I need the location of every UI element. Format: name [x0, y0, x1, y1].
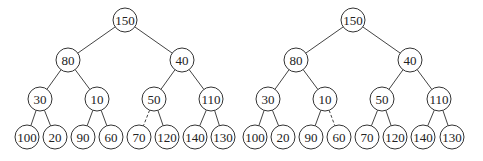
tree-edge: [306, 27, 343, 53]
tree-edge: [161, 70, 175, 90]
tree-edge: [389, 70, 403, 90]
tree-node: 60: [327, 125, 351, 149]
left-tree: 150804030105011010020906070120140130: [15, 8, 235, 149]
node-label: 110: [201, 92, 220, 107]
tree-node: 20: [43, 125, 67, 149]
tree-edge: [31, 110, 36, 125]
tree-node: 120: [383, 125, 407, 149]
tree-node: 60: [99, 125, 123, 149]
tree-edge: [272, 110, 278, 126]
node-label: 120: [157, 130, 177, 145]
tree-node: 50: [370, 87, 394, 111]
tree-node: 40: [170, 48, 194, 72]
tree-edge: [47, 70, 61, 90]
tree-edge: [417, 70, 432, 90]
node-label: 110: [429, 92, 448, 107]
node-label: 130: [442, 130, 462, 145]
tree-node: 40: [398, 48, 422, 72]
node-label: 80: [62, 53, 75, 68]
heap-diagram: 150804030105011010020906070120140130 150…: [0, 0, 483, 161]
tree-node: 10: [85, 87, 109, 111]
tree-node: 50: [142, 87, 166, 111]
edges: [259, 27, 448, 126]
tree-edge: [363, 27, 400, 53]
tree-edge: [443, 110, 448, 125]
tree-node: 140: [411, 125, 435, 149]
tree-node: 30: [28, 87, 52, 111]
tree-edge: [101, 110, 107, 125]
dashed-edge: [143, 110, 149, 126]
tree-edge: [44, 110, 50, 126]
node-label: 120: [385, 130, 405, 145]
node-label: 100: [245, 130, 265, 145]
tree-node: 100: [243, 125, 267, 149]
tree-node: 150: [341, 8, 365, 32]
node-label: 70: [133, 130, 146, 145]
tree-node: 20: [271, 125, 295, 149]
tree-edge: [215, 110, 220, 125]
node-label: 70: [361, 130, 374, 145]
tree-edge: [315, 110, 321, 125]
node-label: 150: [115, 13, 135, 28]
tree-node: 70: [355, 125, 379, 149]
tree-edge: [158, 110, 163, 125]
tree-edge: [135, 27, 172, 53]
node-label: 60: [333, 130, 346, 145]
tree-edge: [75, 70, 90, 90]
tree-node: 90: [71, 125, 95, 149]
tree-edge: [371, 110, 377, 126]
tree-node: 100: [15, 125, 39, 149]
tree-edge: [78, 27, 115, 53]
tree-node: 110: [199, 87, 223, 111]
node-label: 40: [404, 53, 417, 68]
tree-edge: [275, 70, 289, 90]
tree-node: 90: [299, 125, 323, 149]
tree-edge: [259, 110, 264, 125]
node-label: 10: [319, 92, 332, 107]
tree-node: 140: [183, 125, 207, 149]
tree-diagram-canvas: 150804030105011010020906070120140130 150…: [0, 0, 483, 161]
node-label: 30: [262, 92, 275, 107]
tree-node: 70: [127, 125, 151, 149]
node-label: 40: [176, 53, 189, 68]
tree-edge: [189, 70, 204, 90]
tree-node: 120: [155, 125, 179, 149]
tree-node: 80: [56, 48, 80, 72]
node-label: 50: [376, 92, 389, 107]
node-label: 140: [413, 130, 433, 145]
node-label: 80: [290, 53, 303, 68]
node-label: 90: [77, 130, 90, 145]
node-label: 60: [105, 130, 118, 145]
tree-node: 10: [313, 87, 337, 111]
node-label: 130: [213, 130, 233, 145]
node-label: 20: [277, 130, 290, 145]
tree-edge: [428, 110, 435, 126]
tree-edge: [303, 70, 318, 90]
tree-node: 130: [211, 125, 235, 149]
tree-edge: [386, 110, 391, 125]
tree-node: 30: [256, 87, 280, 111]
node-label: 140: [185, 130, 205, 145]
node-label: 90: [305, 130, 318, 145]
node-label: 50: [148, 92, 161, 107]
tree-edge: [200, 110, 207, 126]
tree-node: 150: [113, 8, 137, 32]
tree-edge: [87, 110, 93, 125]
tree-node: 110: [427, 87, 451, 111]
tree-node: 80: [284, 48, 308, 72]
node-label: 30: [34, 92, 47, 107]
tree-node: 130: [440, 125, 464, 149]
node-label: 10: [91, 92, 104, 107]
node-label: 150: [343, 13, 363, 28]
right-tree: 150804030105011010020906070120140130: [243, 8, 464, 149]
node-label: 100: [17, 130, 37, 145]
edges: [31, 27, 220, 126]
dashed-edge: [329, 110, 335, 125]
node-label: 20: [49, 130, 62, 145]
